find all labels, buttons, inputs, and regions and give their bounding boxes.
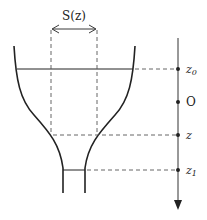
area-label: S(z) [62,9,86,23]
vessel-diagram: S(z) z0 O z z1 [0,0,207,220]
z1-dot [176,168,180,172]
origin-label: O [186,95,196,109]
axis-arrow-down-icon [174,200,182,210]
z0-dot [176,67,180,71]
vessel-left-wall [14,46,63,193]
z1-label: z1 [185,164,197,178]
vessel-right-wall [85,46,135,193]
z-dot [176,133,180,137]
z0-label: z0 [185,63,197,77]
origin-dot [176,100,180,104]
z-label: z [185,129,192,142]
